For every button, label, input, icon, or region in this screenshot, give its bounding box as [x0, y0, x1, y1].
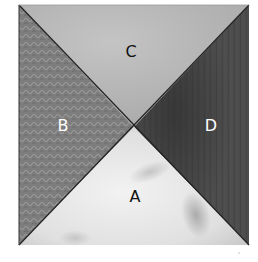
label-c: C [125, 44, 136, 60]
label-a: A [130, 189, 141, 205]
label-d: D [205, 118, 217, 134]
quilt-block-diagram: C B D A [0, 0, 258, 262]
quilt-block-svg [0, 0, 258, 262]
label-b: B [58, 118, 69, 134]
scan-speck [238, 252, 240, 254]
